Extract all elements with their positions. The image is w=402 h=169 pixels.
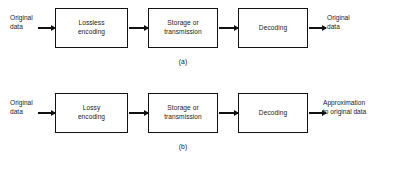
stage-box-label: Storage or transmission (164, 104, 202, 121)
subfigure-label-a: (a) (0, 57, 402, 66)
stage-box-label: Decoding (259, 24, 287, 33)
stage2-to-stage3-arrow (219, 112, 238, 113)
input-arrow (38, 112, 55, 113)
stage-box-label: Decoding (259, 109, 287, 118)
stage-box-label: Lossy encoding (78, 104, 105, 121)
stage-box-storage-or-transmission: Storage or transmission (148, 93, 218, 133)
stage-box-decoding: Decoding (238, 93, 308, 133)
stage-box-label: Lossless encoding (78, 19, 105, 36)
diagram-lossy: Original data Lossy encoding Storage or … (0, 85, 402, 169)
stage2-to-stage3-arrow (219, 27, 238, 28)
input-caption: Original data (10, 14, 33, 31)
input-arrow (38, 27, 55, 28)
stage1-to-stage2-arrow (129, 27, 148, 28)
output-arrow (309, 27, 326, 28)
diagram-lossless: Original data Lossless encoding Storage … (0, 0, 402, 84)
stage1-to-stage2-arrow (129, 112, 148, 113)
stage-box-label: Storage or transmission (164, 19, 202, 36)
subfigure-label-text: (a) (179, 57, 187, 66)
output-caption: Approximation to original data (323, 99, 366, 116)
stage-box-lossless-encoding: Lossless encoding (55, 8, 128, 48)
subfigure-label-text: (b) (179, 142, 187, 151)
subfigure-label-b: (b) (0, 142, 402, 151)
output-caption: Original data (327, 14, 350, 31)
stage-box-storage-or-transmission: Storage or transmission (148, 8, 218, 48)
stage-box-lossy-encoding: Lossy encoding (55, 93, 128, 133)
input-caption: Original data (10, 99, 33, 116)
stage-box-decoding: Decoding (238, 8, 308, 48)
